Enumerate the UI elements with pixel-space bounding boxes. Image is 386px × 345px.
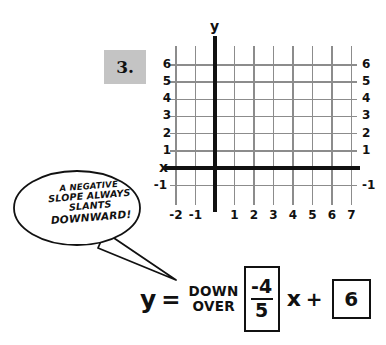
speech-bubble-shape [10,168,185,283]
x-tick-3: 3 [265,208,283,222]
y-tick-right-6: 6 [362,57,380,71]
down-over-annotation: DOWN OVER [189,284,239,314]
equation-variable-x: x [287,288,301,310]
x-tick-7: 7 [343,208,361,222]
equation-plus-sign: + [306,289,323,309]
y-tick-left-3: 3 [153,108,171,122]
y-tick-right-5: 5 [362,74,380,88]
y-tick-left-4: 4 [153,91,171,105]
x-tick-4: 4 [284,208,302,222]
y-tick-left-6: 6 [153,57,171,71]
worksheet-canvas: 3. y x 6 5 4 [0,0,386,345]
equation-equals-sign: = [161,288,180,311]
y-tick-right-2: 2 [362,126,380,140]
x-tick-1: 1 [226,208,244,222]
y-tick-left-5: 5 [153,74,171,88]
intercept-value: 6 [344,289,358,309]
speech-bubble-oval [14,171,140,245]
slope-answer-box[interactable]: -4 5 [244,266,280,332]
y-axis-label: y [210,18,219,34]
slope-numerator: -4 [251,277,272,297]
x-tick-neg1: -1 [187,208,205,222]
slope-intercept-equation: y = DOWN OVER -4 5 x + 6 [140,268,371,330]
equation-variable-y: y [140,287,156,312]
slope-denominator: 5 [255,301,268,321]
y-tick-left-2: 2 [153,126,171,140]
y-tick-left-1: 1 [153,143,171,157]
x-tick-5: 5 [304,208,322,222]
y-tick-right-4: 4 [362,91,380,105]
down-word: DOWN [189,284,239,299]
y-tick-right-1: 1 [362,143,380,157]
intercept-answer-box[interactable]: 6 [332,279,371,319]
over-word: OVER [193,299,239,314]
y-tick-right-neg1: -1 [362,178,380,192]
x-tick-2: 2 [245,208,263,222]
y-tick-right-3: 3 [362,108,380,122]
x-tick-6: 6 [323,208,341,222]
